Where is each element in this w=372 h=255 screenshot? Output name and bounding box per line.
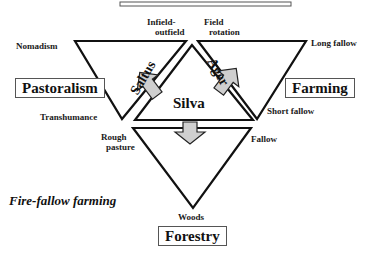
infield-outfield-label-line1: Infield- (147, 17, 176, 27)
long-fallow-label: Long fallow (311, 38, 357, 48)
infield-outfield-label-line2: outfield (155, 27, 185, 37)
field-rotation-label-line1: Field (204, 17, 224, 27)
fallow-label: Fallow (251, 134, 277, 144)
pastoralism-box: Pastoralism (15, 78, 105, 98)
transhumance-label: Transhumance (40, 112, 97, 122)
short-fallow-label: Short fallow (267, 106, 314, 116)
nomadism-label: Nomadism (16, 41, 58, 51)
field-rotation-label-line2: rotation (209, 27, 240, 37)
woods-label: Woods (178, 212, 204, 222)
farming-box: Farming (285, 78, 355, 98)
rough-pasture-label-line2: pasture (106, 142, 135, 152)
silva-label: Silva (173, 95, 205, 112)
rough-pasture-label-line1: Rough (101, 132, 127, 142)
arrow-to-forestry-icon (175, 122, 205, 144)
fire-fallow-farming-title: Fire-fallow farming (9, 193, 116, 209)
title-frame-bar (120, 2, 291, 6)
forestry-box: Forestry (158, 226, 227, 246)
